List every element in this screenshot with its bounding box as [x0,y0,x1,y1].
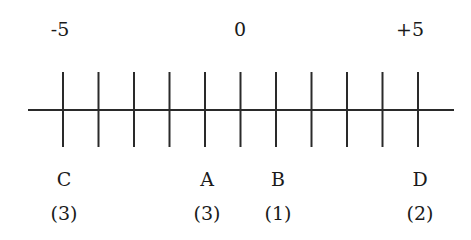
point-label-b: B [271,168,285,190]
axis-label-minus-5: -5 [51,18,70,40]
axis-label-plus-5: +5 [396,18,424,40]
point-letters: C A B D [57,168,428,190]
point-count-c: (3) [51,202,78,224]
point-count-d: (2) [407,202,434,224]
number-line-diagram: -5 0 +5 C A B D (3) (3) (1) (2) [0,0,471,240]
point-label-c: C [57,168,72,190]
axis-label-zero: 0 [234,18,246,40]
point-label-a: A [199,168,214,190]
point-counts: (3) (3) (1) (2) [51,202,434,224]
point-count-a: (3) [194,202,221,224]
point-count-b: (1) [265,202,292,224]
point-label-d: D [412,168,427,190]
axis-labels: -5 0 +5 [51,18,424,40]
